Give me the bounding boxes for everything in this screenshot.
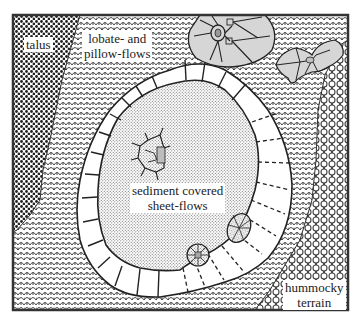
label-sediment-line2: sheet-flows bbox=[132, 198, 223, 213]
label-talus-text: talus bbox=[26, 37, 51, 52]
polygonal-flow-feature-top bbox=[188, 15, 274, 67]
label-lobate-pillow-flows: lobate- and pillow-flows bbox=[82, 31, 152, 61]
label-hummocky-line1: hummocky bbox=[285, 280, 344, 295]
rosette-feature-1 bbox=[187, 244, 209, 266]
label-sediment-line1: sediment covered bbox=[132, 183, 223, 198]
label-lobate-line2: pillow-flows bbox=[84, 46, 150, 61]
label-lobate-line1: lobate- and bbox=[84, 31, 150, 46]
label-hummocky-line2: terrain bbox=[285, 295, 344, 310]
label-sediment-covered-sheet-flows: sediment covered sheet-flows bbox=[130, 183, 225, 213]
label-hummocky-terrain: hummocky terrain bbox=[283, 280, 346, 310]
label-talus: talus bbox=[24, 37, 53, 52]
